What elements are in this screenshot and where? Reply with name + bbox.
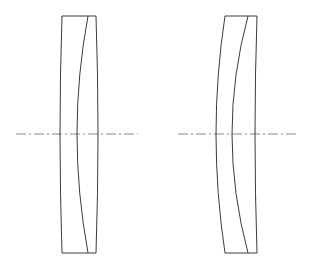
lens-diagram-svg (0, 0, 310, 264)
lens-diagram-canvas (0, 0, 310, 264)
left-lens (16, 16, 138, 253)
right-lens (178, 16, 296, 253)
